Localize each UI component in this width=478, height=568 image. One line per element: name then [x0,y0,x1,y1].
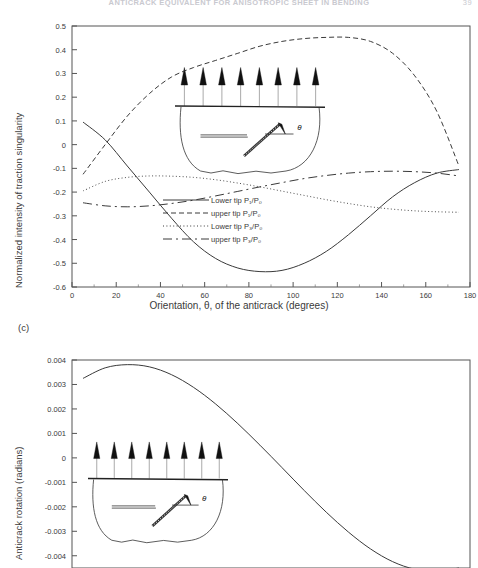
running-head-text: ANTICRACK EQUIVALENT FOR ANISOTROPIC SHE… [109,0,370,7]
y-tick-label: -0.6 [53,283,66,292]
anticrack-rotation-plot: -0.004-0.003-0.002-0.00100.0010.0020.003… [0,330,478,568]
y-tick-label: -0.3 [53,212,66,221]
running-head: ANTICRACK EQUIVALENT FOR ANISOTROPIC SHE… [0,0,478,10]
x-tick-label: 180 [464,291,477,300]
y-tick-label: 0 [62,141,66,150]
load-arrow-head [164,442,170,459]
series-line [83,122,459,272]
y-tick-label: -0.004 [45,552,66,561]
y-tick-label: 0.001 [47,429,66,438]
y-tick-label: 0.4 [56,46,66,55]
load-arrow-head [312,68,319,86]
series-line [83,37,459,174]
legend-label: Lower tip P₃/P₀ [211,222,262,231]
x-tick-label: 140 [375,291,388,300]
legend-label: Lower tip P₁/P₀ [211,196,262,205]
y-tick-label: 0 [62,454,66,463]
x-axis-label-b: Orientation, θ, of the anticrack (degree… [0,300,478,311]
angle-arrow-head [278,123,285,134]
x-tick-label: 80 [245,291,253,300]
series-line [83,365,459,568]
y-tick-label: -0.5 [53,259,66,268]
free-surface-line [88,479,228,480]
load-arrow-head [181,68,188,86]
load-arrow-head [294,68,301,86]
chart-panel-b: -0.6-0.5-0.4-0.3-0.2-0.100.10.20.30.40.5… [0,14,478,314]
half-space-boundary [180,107,320,174]
load-arrow-head [237,68,244,86]
chart-panel-c: -0.004-0.003-0.002-0.00100.0010.0020.003… [0,330,478,568]
x-tick-label: 0 [70,291,74,300]
load-arrow-head [200,68,207,86]
y-tick-label: -0.001 [45,478,66,487]
y-axis-label-b: Normalized intensity of traction singula… [13,113,24,288]
x-tick-label: 20 [112,291,120,300]
angle-arrow-head [184,494,191,505]
theta-symbol: θ [297,123,302,132]
y-tick-label: 0.2 [56,93,66,102]
y-tick-label: 0.004 [47,356,66,365]
load-arrow-head [146,442,152,459]
y-tick-label: -0.003 [45,527,66,536]
legend-label: upper tip P₁/P₀ [211,209,261,218]
y-axis-label-c: Anticrack rotation (radians) [13,446,24,560]
x-tick-label: 100 [287,291,300,300]
anticrack-bar [152,496,186,526]
traction-singularity-plot: -0.6-0.5-0.4-0.3-0.2-0.100.10.20.30.40.5… [0,14,478,314]
load-arrow-head [111,442,117,459]
x-tick-label: 160 [420,291,433,300]
load-arrow-head [199,442,205,459]
half-space-boundary [93,480,223,543]
theta-symbol: θ [202,494,207,503]
y-tick-label: -0.1 [53,164,66,173]
y-tick-label: 0.5 [56,22,66,31]
plot-frame [72,26,470,287]
figure-page: ANTICRACK EQUIVALENT FOR ANISOTROPIC SHE… [0,0,478,568]
inset-diagram: θ [88,442,228,543]
x-tick-label: 60 [200,291,208,300]
y-tick-label: -0.2 [53,188,66,197]
free-surface-line [175,106,325,107]
y-tick-label: -0.4 [53,236,66,245]
y-tick-label: 0.003 [47,380,66,389]
y-tick-label: -0.002 [45,503,66,512]
y-tick-label: 0.1 [56,117,66,126]
load-arrow-head [219,68,226,86]
load-arrow-head [216,442,222,459]
load-arrow-head [256,68,263,86]
y-tick-label: 0.3 [56,69,66,78]
load-arrow-head [181,442,187,459]
load-arrow-head [94,442,100,459]
x-tick-label: 40 [156,291,164,300]
load-arrow-head [129,442,135,459]
series-line [83,176,459,212]
page-folio: 39 [463,0,472,7]
load-arrow-head [275,68,282,86]
legend: Lower tip P₁/P₀upper tip P₁/P₀Lower tip … [163,196,262,244]
x-tick-label: 120 [331,291,344,300]
y-tick-label: 0.002 [47,405,66,414]
inset-diagram: θ [175,68,325,174]
legend-label: upper tip P₃/P₀ [211,235,261,244]
